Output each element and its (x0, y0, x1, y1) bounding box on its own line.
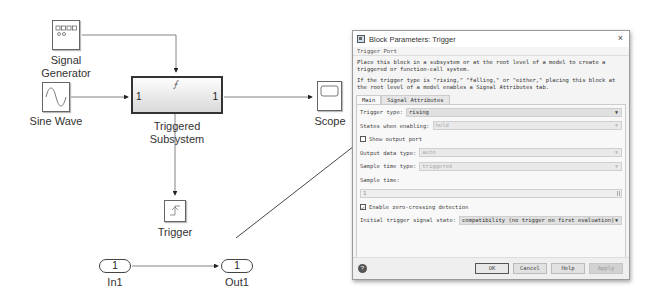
section-title: Trigger Port (353, 47, 629, 56)
sample-time-input: 1 (360, 189, 622, 198)
chevron-down-icon: ▼ (615, 163, 618, 170)
states-when-enabling-value: held (436, 122, 449, 128)
trigger-block[interactable] (164, 200, 186, 222)
trigger-type-select[interactable]: rising ▼ (406, 108, 622, 117)
trigger-type-row: Trigger type: rising ▼ (360, 107, 622, 117)
help-icon[interactable]: ? (358, 264, 367, 273)
sample-time-input-row: 1 (360, 188, 622, 198)
scope-icon (318, 82, 341, 110)
tab-main[interactable]: Main (356, 95, 381, 104)
cancel-button[interactable]: Cancel (513, 263, 547, 274)
triggered-subsystem-label: Triggered Subsystem (137, 120, 217, 146)
triggered-subsystem-label-line1: Triggered (137, 120, 217, 133)
description-paragraph-1: Place this block in a subsystem or at th… (357, 59, 625, 73)
help-button[interactable]: Help (551, 263, 585, 274)
sample-time-type-value: triggered (422, 163, 452, 169)
show-output-port-checkbox[interactable] (360, 136, 366, 142)
sample-time-type-row: Sample time type: triggered ▼ (360, 161, 622, 171)
output-data-type-label: Output data type: (360, 150, 416, 156)
signal-generator-label: Signal Generator (35, 54, 97, 80)
sample-time-label-row: Sample time: (360, 175, 622, 185)
subsystem-in-port-number: 1 (136, 91, 142, 102)
sample-time-type-label: Sample time type: (360, 163, 416, 169)
chevron-down-icon: ▼ (615, 122, 618, 129)
description-paragraph-2: If the trigger type is "rising," "fallin… (357, 77, 625, 91)
dialog-titlebar[interactable]: Block Parameters: Trigger × (353, 31, 629, 47)
scope-label: Scope (309, 115, 351, 128)
chevron-down-icon: ▼ (615, 149, 618, 156)
sine-wave-block[interactable] (42, 82, 70, 112)
block-parameters-dialog: Block Parameters: Trigger × Trigger Port… (352, 30, 630, 280)
sample-time-label: Sample time: (360, 177, 400, 183)
ok-button[interactable]: OK (475, 263, 509, 274)
zero-crossing-row: ✓ Enable zero-crossing detection (360, 202, 622, 212)
signal-generator-block[interactable] (52, 20, 80, 50)
sine-wave-label: Sine Wave (22, 115, 90, 128)
sample-time-value: 1 (363, 190, 366, 196)
enable-zero-crossing-label[interactable]: Enable zero-crossing detection (369, 204, 468, 210)
in1-port-block[interactable]: 1 (99, 259, 131, 273)
enable-zero-crossing-checkbox[interactable]: ✓ (360, 204, 366, 210)
in1-port-number: 1 (112, 260, 118, 271)
subsystem-out-port-number: 1 (212, 91, 218, 102)
close-icon[interactable]: × (618, 33, 623, 43)
initial-trigger-state-value: compatibility (no trigger on first evalu… (462, 217, 614, 223)
chevron-down-icon: ▼ (615, 109, 618, 116)
initial-trigger-state-select[interactable]: compatibility (no trigger on first evalu… (459, 216, 622, 225)
initial-trigger-state-label: Initial trigger signal state: (360, 217, 456, 223)
sine-wave-icon (43, 83, 69, 111)
dialog-footer: ? OK Cancel Help Apply (353, 257, 629, 279)
triggered-subsystem-block[interactable]: 1 1 ⨍ (131, 76, 223, 114)
trigger-type-value: rising (409, 109, 429, 115)
trigger-port-icon: ⨍ (173, 79, 178, 89)
out1-port-block[interactable]: 1 (221, 259, 253, 273)
signal-generator-icon (53, 21, 79, 49)
simulink-block-icon (357, 35, 365, 43)
scope-block[interactable] (317, 81, 342, 111)
signal-generator-label-line1: Signal (35, 54, 97, 67)
show-output-port-label[interactable]: Show output port (369, 136, 422, 142)
output-data-type-select: auto ▼ (419, 148, 622, 157)
trigger-type-label: Trigger type: (360, 109, 403, 115)
chevron-down-icon: ▼ (615, 217, 618, 224)
main-tab-panel: Trigger type: rising ▼ States when enabl… (356, 104, 626, 267)
resize-grip-icon (617, 191, 620, 196)
sample-time-type-select: triggered ▼ (419, 162, 622, 171)
triggered-subsystem-label-line2: Subsystem (137, 133, 217, 146)
output-data-type-value: auto (422, 149, 435, 155)
tab-signal-attributes[interactable]: Signal Attributes (381, 95, 449, 104)
block-description: Place this block in a subsystem or at th… (353, 56, 629, 91)
signal-generator-label-line2: Generator (35, 67, 97, 80)
dialog-title: Block Parameters: Trigger (369, 35, 456, 44)
out1-label: Out1 (220, 276, 254, 289)
in1-label: In1 (100, 276, 130, 289)
output-data-type-row: Output data type: auto ▼ (360, 148, 622, 158)
show-output-port-row: Show output port (360, 134, 622, 144)
trigger-label: Trigger (150, 226, 200, 239)
parameter-tabs: Main Signal Attributes (356, 95, 626, 104)
apply-button[interactable]: Apply (589, 263, 623, 274)
states-when-enabling-label: States when enabling: (360, 123, 430, 129)
states-when-enabling-select: held ▼ (433, 121, 622, 130)
out1-port-number: 1 (234, 260, 240, 271)
initial-trigger-state-row: Initial trigger signal state: compatibil… (360, 215, 622, 225)
states-when-enabling-row: States when enabling: held ▼ (360, 121, 622, 131)
rising-edge-icon (165, 201, 185, 221)
